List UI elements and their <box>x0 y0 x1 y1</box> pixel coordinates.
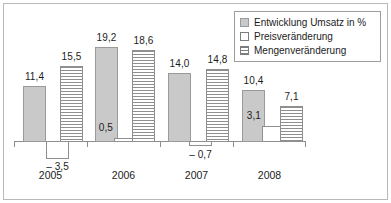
bar-2007-umsatz <box>168 73 191 142</box>
x-axis-tick <box>160 142 161 147</box>
x-axis-tick <box>305 142 306 147</box>
value-label-2006-menge: 18,6 <box>123 35 164 46</box>
x-axis-label-2006: 2006 <box>103 169 144 181</box>
value-label-2007-menge: 14,8 <box>197 54 238 65</box>
x-axis-tick <box>233 142 234 147</box>
value-label-2008-preis: 3,1 <box>237 110 261 121</box>
bar-2005-menge <box>60 66 83 142</box>
legend-swatch-hollow-icon <box>240 32 249 41</box>
value-label-2007-preis: – 0,7 <box>178 149 223 160</box>
bar-2007-menge <box>206 69 229 142</box>
bar-2005-umsatz <box>23 86 46 142</box>
legend-label-umsatz: Entwicklung Umsatz in % <box>254 17 366 28</box>
legend-item-preis: Preisveränderung <box>240 30 375 43</box>
x-axis-tick <box>87 142 88 147</box>
plot-area: 11,4 – 3,5 15,5 19,2 0,5 18,6 14,0 – 0,7… <box>0 0 391 203</box>
value-label-2008-menge: 7,1 <box>271 91 312 102</box>
x-axis-label-2005: 2005 <box>30 169 71 181</box>
bar-2006-menge <box>132 50 155 142</box>
value-label-2005-menge: 15,5 <box>51 51 92 62</box>
legend-item-menge: Mengenveränderung <box>240 44 375 57</box>
value-label-2008-umsatz: 10,4 <box>233 75 274 86</box>
legend-item-umsatz: Entwicklung Umsatz in % <box>240 16 375 29</box>
value-label-2007-umsatz: 14,0 <box>159 58 200 69</box>
bar-chart-figure: 11,4 – 3,5 15,5 19,2 0,5 18,6 14,0 – 0,7… <box>0 0 391 203</box>
legend-swatch-solid-icon <box>240 18 249 27</box>
bar-2008-menge <box>280 106 303 142</box>
value-label-2006-umsatz: 19,2 <box>86 32 127 43</box>
legend-label-preis: Preisveränderung <box>254 31 333 42</box>
x-axis-label-2007: 2007 <box>176 169 217 181</box>
value-label-2005-umsatz: 11,4 <box>14 71 55 82</box>
chart-legend: Entwicklung Umsatz in % Preisveränderung… <box>234 11 381 62</box>
legend-label-menge: Mengenveränderung <box>254 45 346 56</box>
x-axis-tick <box>14 142 15 147</box>
bar-2005-preis <box>46 141 69 159</box>
legend-swatch-striped-icon <box>240 46 249 55</box>
x-axis-label-2008: 2008 <box>249 169 290 181</box>
value-label-2006-preis: 0,5 <box>88 122 113 133</box>
